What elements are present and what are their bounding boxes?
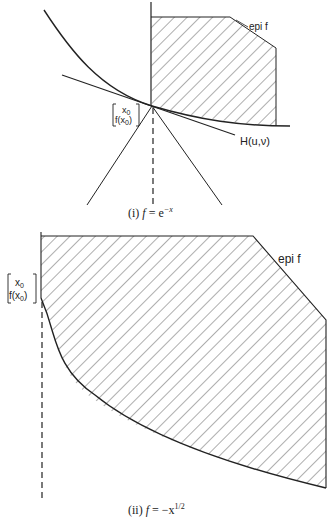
caption-i: (i) f = e−x [128,205,173,220]
caption-ii: (ii) f = −x1/2 [128,502,185,517]
epi-label-i: epi f [249,21,268,32]
epigraph-region-i [151,17,276,126]
figure-ii: epi f x0 f(x0) (ii) f = −x1/2 [8,232,326,517]
point-label-ii: x0 f(x0) [8,274,36,303]
epigraph-region-ii [41,236,326,488]
point-label-i: x0 f(x0) [113,104,139,126]
svg-text:f(x0): f(x0) [115,115,132,126]
hyperplane-label: H(u,ν) [240,135,270,147]
epi-label-ii: epi f [278,252,301,266]
cone-line-right [152,106,222,205]
figure-i: epi f x0 f(x0) H(u,ν) (i) f = e−x [44,2,290,220]
epigraph-figures: epi f x0 f(x0) H(u,ν) (i) f = e−x epi f … [0,0,330,524]
svg-text:f(x0): f(x0) [9,290,27,302]
svg-text:x0: x0 [15,277,24,289]
